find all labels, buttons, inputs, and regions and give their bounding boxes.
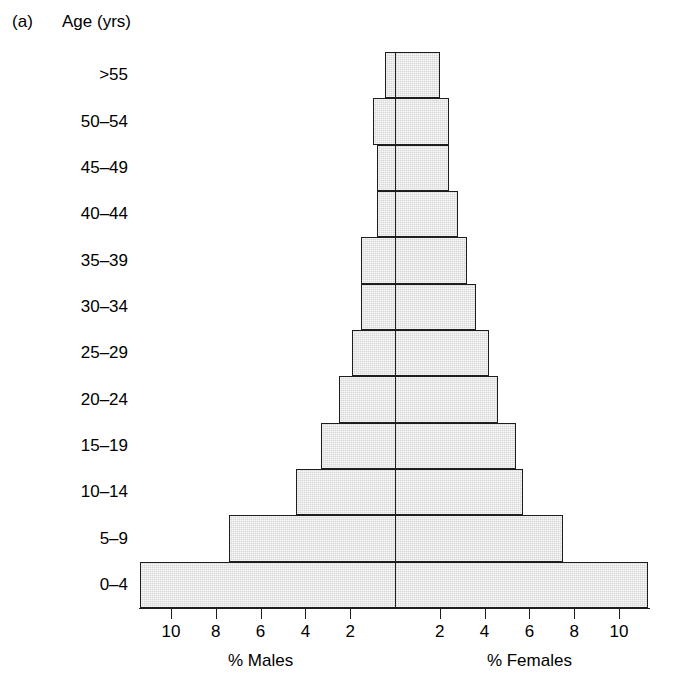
bar-female — [395, 284, 476, 330]
x-tick-label-female: 8 — [569, 622, 578, 642]
y-axis-tick-labels: >5550–5445–4940–4435–3930–3425–2920–2415… — [0, 52, 128, 608]
y-axis-tick-label: >55 — [0, 65, 128, 85]
bar-female — [395, 562, 648, 608]
bar-male — [377, 145, 395, 191]
bar-female — [395, 376, 498, 422]
y-axis-tick-label: 50–54 — [0, 112, 128, 132]
x-axis-tick — [261, 608, 262, 619]
x-tick-label-female: 4 — [480, 622, 489, 642]
x-tick-label-female: 10 — [610, 622, 629, 642]
x-axis-tick — [440, 608, 441, 619]
x-tick-label-female: 6 — [525, 622, 534, 642]
bar-male — [352, 330, 395, 376]
y-axis-tick-label: 30–34 — [0, 297, 128, 317]
x-tick-label-male: 2 — [345, 622, 354, 642]
y-axis-tick-label: 35–39 — [0, 251, 128, 271]
x-tick-label-male: 10 — [162, 622, 181, 642]
panel-label: (a) — [12, 12, 33, 32]
y-axis-title: Age (yrs) — [62, 12, 131, 32]
center-axis-line — [395, 52, 396, 608]
bar-male — [385, 52, 395, 98]
bar-female — [395, 145, 449, 191]
plot-area — [139, 52, 650, 608]
y-axis-tick-label: 15–19 — [0, 436, 128, 456]
x-axis-tick — [350, 608, 351, 619]
y-axis-tick-label: 45–49 — [0, 158, 128, 178]
y-axis-tick-label: 40–44 — [0, 204, 128, 224]
y-axis-tick-label: 0–4 — [0, 575, 128, 595]
y-axis-tick-label: 5–9 — [0, 529, 128, 549]
x-tick-label-male: 8 — [211, 622, 220, 642]
x-axis-tick — [529, 608, 530, 619]
bar-female — [395, 52, 440, 98]
population-pyramid-figure: (a) Age (yrs) >5550–5445–4940–4435–3930–… — [0, 0, 681, 694]
x-axis-tick — [574, 608, 575, 619]
x-axis-tick — [216, 608, 217, 619]
bar-male — [296, 469, 395, 515]
bar-female — [395, 469, 523, 515]
x-axis-tick — [485, 608, 486, 619]
bar-male — [229, 515, 395, 561]
bar-female — [395, 423, 516, 469]
bar-female — [395, 515, 563, 561]
x-tick-label-male: 4 — [301, 622, 310, 642]
x-axis-tick — [305, 608, 306, 619]
x-axis-tick — [171, 608, 172, 619]
bar-female — [395, 98, 449, 144]
bar-male — [140, 562, 395, 608]
bar-male — [361, 284, 395, 330]
x-axis-title-males: % Males — [228, 651, 293, 671]
bar-female — [395, 330, 489, 376]
y-axis-tick-label: 10–14 — [0, 482, 128, 502]
bar-male — [361, 237, 395, 283]
bar-male — [373, 98, 395, 144]
y-axis-tick-label: 25–29 — [0, 343, 128, 363]
x-axis-tick — [619, 608, 620, 619]
x-axis-title-females: % Females — [487, 651, 572, 671]
bar-male — [339, 376, 395, 422]
x-tick-label-female: 2 — [435, 622, 444, 642]
x-tick-label-male: 6 — [256, 622, 265, 642]
y-axis-tick-label: 20–24 — [0, 390, 128, 410]
bar-male — [377, 191, 395, 237]
bar-female — [395, 237, 467, 283]
bar-male — [321, 423, 395, 469]
bar-female — [395, 191, 458, 237]
